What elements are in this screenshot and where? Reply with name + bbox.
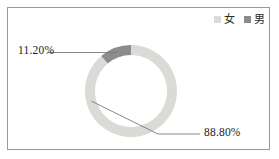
legend-item-male[interactable]: 男 [244,14,265,25]
data-label-male-percent: 11.20% [18,44,54,56]
legend-swatch-female [214,16,221,23]
legend-label-male: 男 [254,14,265,25]
legend-label-female: 女 [224,14,235,25]
legend: 女 男 [214,14,265,25]
donut-slice-女[interactable] [85,45,177,137]
legend-swatch-male [244,16,251,23]
leader-line-group [48,53,200,135]
donut-slice-男[interactable] [101,45,131,64]
data-label-female-percent: 88.80% [204,126,241,138]
chart-frame: 女 男 88.80% 11.20% [7,7,270,150]
legend-item-female[interactable]: 女 [214,14,235,25]
donut-arc-group [85,45,177,137]
